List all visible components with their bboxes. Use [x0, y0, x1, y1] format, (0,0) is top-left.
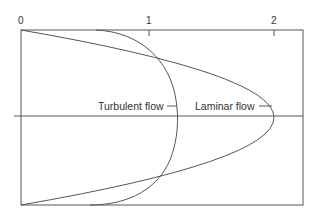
laminar-profile-curve	[21, 30, 274, 205]
tick-label-0: 0	[18, 15, 24, 26]
laminar-flow-label: Laminar flow	[195, 100, 255, 112]
turbulent-profile-curve	[90, 30, 178, 205]
flow-profile-diagram: 0 1 2 Turbulent flow Laminar flow	[0, 0, 315, 216]
tick-label-2: 2	[271, 15, 277, 26]
tick-label-1: 1	[146, 15, 152, 26]
turbulent-flow-label: Turbulent flow	[98, 100, 164, 112]
pipe-outline	[21, 30, 303, 205]
